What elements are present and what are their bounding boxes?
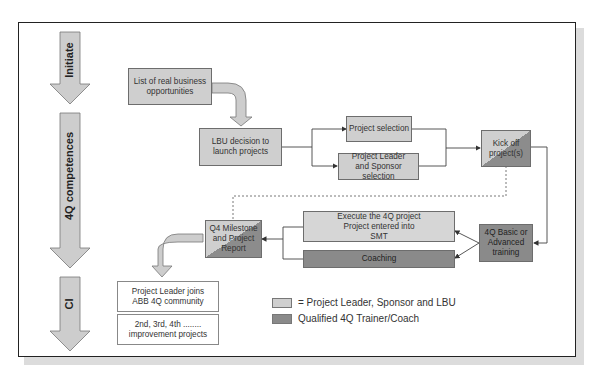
leader-sponsor-selection-box: Project Leader and Sponsor selection — [338, 153, 419, 180]
milestone-box: Q4 Milestone and Project Report — [205, 220, 262, 258]
legend-label-dark: Qualified 4Q Trainer/Coach — [298, 313, 419, 324]
kick-off-box: Kick off project(s) — [481, 130, 531, 167]
community-box: Project Leader joins ABB 4Q community — [117, 281, 219, 312]
improvement-projects-box: 2nd, 3rd, 4th ........ improvement proje… — [117, 314, 219, 345]
execute-box: Execute the 4Q project Project entered i… — [303, 211, 455, 242]
legend-swatch-dark — [272, 314, 292, 324]
legend-item-light: = Project Leader, Sponsor and LBU — [272, 297, 456, 308]
curved-arrow-opportunities-to-lbu — [212, 83, 252, 126]
training-box: 4Q Basic or Advanced training — [479, 224, 533, 262]
improvement-ordinals: 2nd, 3rd, 4th ........ — [135, 320, 201, 330]
project-selection-box: Project selection — [346, 116, 412, 142]
phase-label-ci: CI — [63, 284, 77, 324]
legend-swatch-light — [272, 298, 292, 308]
phase-label-4q-competences: 4Q competences — [63, 126, 77, 226]
connectors — [0, 0, 598, 382]
coaching-box: Coaching — [303, 250, 455, 268]
opportunities-box: List of real business opportunities — [128, 68, 212, 105]
improvement-text: improvement projects — [129, 330, 207, 340]
curved-arrow-milestone-to-community — [152, 234, 203, 277]
lbu-decision-box: LBU decision to launch projects — [199, 128, 282, 166]
legend-label-light: = Project Leader, Sponsor and LBU — [298, 297, 456, 308]
phase-label-initiate: Initiate — [63, 30, 77, 90]
legend-item-dark: Qualified 4Q Trainer/Coach — [272, 313, 419, 324]
